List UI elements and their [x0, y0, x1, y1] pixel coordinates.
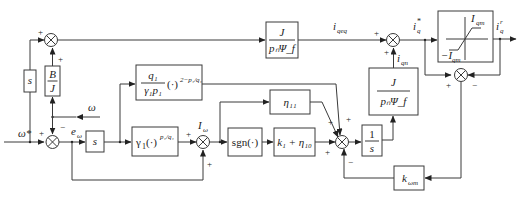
control-block-diagram: ω* s + + B J ω	[0, 0, 530, 199]
svg-text:qm: qm	[452, 56, 461, 64]
q1-power-block: q₁ γ₁p₁ (·) 2−p₁/q₁	[136, 65, 202, 100]
torque-gain-block-lower: J pₙΨ_f	[369, 68, 418, 115]
svg-text:ωm: ωm	[408, 179, 418, 187]
svg-text:s: s	[93, 135, 97, 147]
svg-text:p₁/q₁: p₁/q₁	[159, 133, 174, 141]
gamma1-power-block: γ 1 (·) p₁/q₁	[132, 127, 178, 156]
b-over-j-block: B J	[45, 66, 60, 96]
eta11-gain-block: η₁₁	[270, 90, 310, 114]
svg-text:+: +	[186, 129, 191, 139]
svg-text:ω: ω	[77, 132, 82, 140]
current-ref-summing-junction	[387, 34, 400, 47]
svg-text:+: +	[58, 54, 63, 64]
derivative-block: s	[86, 131, 104, 152]
svg-text:(·): (·)	[146, 136, 157, 149]
svg-text:γ: γ	[135, 136, 141, 148]
omega-ref-input: ω*	[4, 127, 44, 142]
sign-function-block: sgn(·)	[228, 128, 262, 156]
top-summing-junction: + +	[38, 27, 63, 64]
svg-text:2−p₁/q₁: 2−p₁/q₁	[180, 76, 202, 84]
omega-fb-label: ω	[88, 101, 96, 113]
k1-eta10-gain-block: k₁ + η₁₀	[274, 128, 315, 156]
svg-text:r: r	[500, 18, 503, 26]
svg-text:1: 1	[369, 128, 375, 140]
svg-text:qm: qm	[476, 19, 485, 27]
i-omega-summing-junction	[197, 136, 210, 149]
integrator-block: 1 s	[362, 125, 382, 156]
svg-text:+: +	[446, 80, 451, 90]
svg-text:η₁₁: η₁₁	[283, 96, 296, 108]
k-omega-m-gain-block: k ωm	[394, 166, 424, 190]
svg-text:pₙΨ_f: pₙΨ_f	[268, 42, 297, 54]
svg-text:+: +	[346, 114, 351, 124]
torque-gain-block-upper: J pₙΨ_f	[266, 22, 298, 58]
svg-text:q: q	[500, 27, 504, 35]
s-left-label: s	[28, 74, 32, 86]
svg-text:k₁ + η₁₀: k₁ + η₁₀	[277, 136, 312, 148]
saturation-error-summing-junction: + −	[446, 69, 477, 91]
i-qn-label: i	[397, 52, 400, 64]
iq-out-label: i	[496, 20, 499, 32]
svg-text:+: +	[384, 47, 389, 57]
svg-text:q: q	[417, 27, 421, 35]
svg-text:s: s	[370, 142, 374, 154]
svg-text:+: +	[325, 147, 330, 157]
svg-text:ω: ω	[203, 126, 208, 134]
svg-text:+: +	[374, 28, 379, 38]
svg-text:−: −	[348, 157, 353, 167]
saturation-block: I qm −I qm	[438, 11, 493, 64]
svg-text:(·): (·)	[167, 78, 178, 91]
svg-text:+: +	[39, 128, 44, 138]
svg-text:*: *	[417, 17, 421, 26]
svg-text:qn: qn	[401, 59, 409, 67]
svg-text:pₙΨ_f: pₙΨ_f	[380, 95, 409, 107]
i-qeq-label: i	[333, 20, 336, 32]
svg-text:qeq: qeq	[337, 27, 348, 35]
svg-text:q₁: q₁	[148, 69, 158, 81]
e-omega-label: e	[71, 125, 76, 137]
svg-text:+: +	[328, 117, 333, 127]
iq-star-label: i	[413, 20, 416, 32]
svg-text:B: B	[49, 68, 56, 80]
derivative-block-left: s	[24, 70, 36, 92]
sliding-surface-summing-junction	[336, 136, 349, 149]
svg-text:+: +	[207, 159, 212, 169]
svg-text:−: −	[472, 80, 477, 90]
svg-text:γ₁p₁: γ₁p₁	[144, 84, 162, 96]
svg-text:sgn(·): sgn(·)	[232, 136, 259, 149]
svg-text:−: −	[60, 122, 65, 132]
svg-text:+: +	[38, 27, 43, 37]
